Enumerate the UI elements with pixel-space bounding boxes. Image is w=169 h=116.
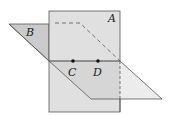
label-b: B bbox=[25, 26, 34, 39]
label-a: A bbox=[107, 12, 116, 25]
point-c bbox=[71, 59, 75, 63]
intersecting-planes-diagram: A B C D bbox=[0, 0, 169, 116]
point-d bbox=[96, 59, 100, 63]
label-d: D bbox=[92, 66, 102, 79]
label-c: C bbox=[68, 66, 77, 79]
